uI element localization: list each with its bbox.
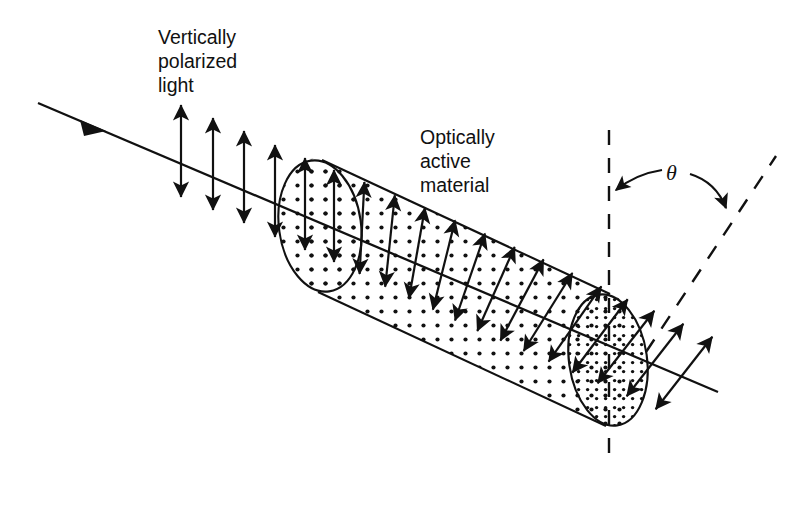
theta-arrow-to-vertical <box>616 170 662 190</box>
incoming-light-label-line3: light <box>158 74 194 96</box>
incoming-light-label: Vertically polarized light <box>158 26 237 96</box>
theta-arrow-to-rotated <box>690 174 726 208</box>
material-label-line3: material <box>420 174 489 196</box>
incoming-light-label-line1: Vertically <box>158 26 236 48</box>
material-label-line2: active <box>420 150 471 172</box>
diagram-canvas: Vertically polarized light Optically act… <box>0 0 809 509</box>
optical-rotation-figure: Vertically polarized light Optically act… <box>0 0 809 509</box>
beam-direction-arrowhead <box>80 120 106 136</box>
material-label-line1: Optically <box>420 126 495 148</box>
light-beam-axis <box>38 103 718 392</box>
incoming-light-label-line2: polarized <box>158 50 237 72</box>
material-label: Optically active material <box>420 126 495 196</box>
theta-angle-label: θ <box>666 160 677 185</box>
